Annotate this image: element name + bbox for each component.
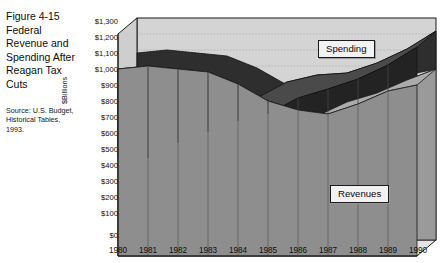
x-axis-ticks: 1980 1981 1982 1983 1984 1985 1986 1987 …	[0, 0, 448, 263]
x-tick: 1989	[371, 246, 405, 255]
x-tick: 1987	[311, 246, 345, 255]
x-tick: 1990	[401, 246, 435, 255]
series-label-revenues: Revenues	[330, 185, 389, 203]
x-tick: 1981	[131, 246, 165, 255]
x-tick: 1986	[281, 246, 315, 255]
x-tick: 1980	[101, 246, 135, 255]
series-label-spending: Spending	[318, 40, 375, 58]
x-tick: 1985	[251, 246, 285, 255]
figure-container: Figure 4-15 Federal Revenue and Spending…	[0, 0, 448, 263]
x-tick: 1983	[191, 246, 225, 255]
x-tick: 1982	[161, 246, 195, 255]
x-tick: 1984	[221, 246, 255, 255]
x-tick: 1988	[341, 246, 375, 255]
